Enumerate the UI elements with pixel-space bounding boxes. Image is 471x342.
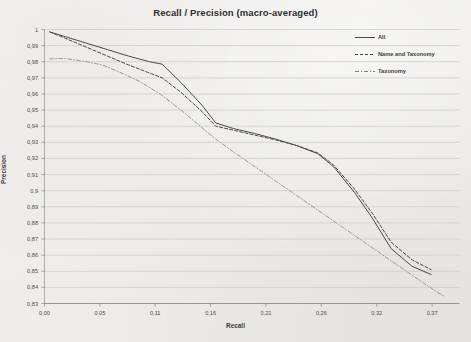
y-tick-label: 0,95 [14,107,38,113]
y-tick-label: 0,93 [14,139,38,145]
y-tick-label: 0,91 [14,172,38,178]
x-tick-label: 0,26 [316,310,327,316]
x-tick-label: 0,11 [150,310,160,316]
x-tick-label: 0,00 [39,310,50,316]
legend-item-all: All [355,33,435,41]
y-axis-title: Precision [0,155,7,184]
x-tick-label: 0,05 [94,310,105,316]
x-tick-label: 0,37 [427,310,438,316]
y-tick-label: 0,92 [14,155,38,161]
legend-item-name-and-taxonomy: Name and Taxonomy [355,50,435,58]
legend-swatch-solid-icon [355,34,375,41]
y-tick-label: 1 [14,27,38,33]
legend-swatch-dashdot-icon [355,68,375,75]
y-tick-label: 0,85 [14,268,38,274]
recall-precision-chart: Recall / Precision (macro-averaged) 10,9… [0,0,471,342]
x-tick-label: 0,21 [261,310,272,316]
y-tick-label: 0,86 [14,252,38,258]
legend-swatch-dashed-icon [355,51,375,58]
y-tick-label: 0,94 [14,123,38,129]
chart-legend: All Name and Taxonomy Taxonomy [355,33,435,75]
legend-item-taxonomy: Taxonomy [355,67,435,75]
x-tick-label: 0,16 [205,310,216,316]
y-tick-label: 0,89 [14,204,38,210]
legend-label-all: All [378,34,385,40]
legend-label-taxonomy: Taxonomy [378,68,406,74]
y-tick-label: 0,96 [14,91,38,97]
y-tick-label: 0,83 [14,301,38,307]
y-tick-label: 0,98 [14,59,38,65]
legend-label-name-and-taxonomy: Name and Taxonomy [378,51,435,57]
y-tick-label: 0,87 [14,236,38,242]
y-tick-label: 0,88 [14,220,38,226]
x-axis-title: Recall [0,322,471,329]
y-tick-label: 0,99 [14,43,38,49]
y-tick-label: 0,97 [14,75,38,81]
x-tick-label: 0,32 [371,310,382,316]
y-tick-label: 0,84 [14,284,38,290]
y-tick-label: 0,9 [14,188,38,194]
